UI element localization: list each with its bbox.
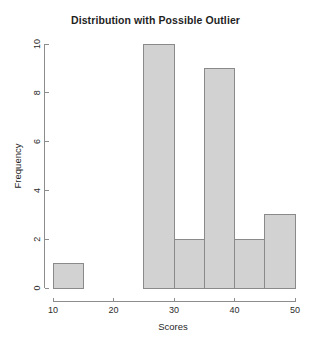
histogram-bar [174,239,204,288]
histogram-bar [53,264,83,288]
histogram-bar [265,215,295,288]
histogram-bar [235,239,265,288]
y-axis-tick-label: 6 [32,139,42,144]
y-axis-tick-label: 10 [32,39,42,49]
y-axis-tick-label: 0 [32,285,42,290]
x-axis-tick-label: 20 [108,305,118,315]
x-axis-title: Scores [158,321,188,332]
x-axis-tick-label: 10 [48,305,58,315]
x-axis: 1020304050 [48,298,300,315]
x-axis-tick-label: 40 [229,305,239,315]
y-axis-title: Frequency [12,143,23,188]
histogram-bar [144,44,174,288]
histogram-bar [204,68,234,288]
y-axis-tick-label: 4 [32,188,42,193]
chart-canvas: 1020304050 0246810 Scores Frequency [0,0,311,342]
histogram-figure: Distribution with Possible Outlier 10203… [0,0,311,342]
y-axis: 0246810 [32,39,49,291]
y-axis-tick-label: 8 [32,90,42,95]
x-axis-tick-label: 30 [169,305,179,315]
x-axis-tick-label: 50 [290,305,300,315]
y-axis-tick-label: 2 [32,237,42,242]
plot-area: 1020304050 0246810 Scores Frequency [0,0,311,342]
bars-group [53,44,295,288]
